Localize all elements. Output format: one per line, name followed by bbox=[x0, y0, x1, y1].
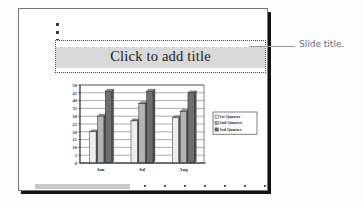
page-bottom-tick bbox=[164, 185, 166, 187]
y-axis-tick-label: 45 bbox=[73, 91, 78, 96]
bar-side-face bbox=[153, 89, 155, 163]
y-axis-tick-label: 5 bbox=[75, 153, 78, 158]
legend-label: 1st Quarter bbox=[220, 114, 241, 119]
bar[interactable] bbox=[180, 112, 186, 163]
legend-swatch bbox=[215, 115, 218, 118]
scanned-page: Click to add title 05101520253035404550J… bbox=[0, 0, 363, 207]
page-bottom-tick bbox=[264, 185, 266, 187]
page-bottom-tick bbox=[184, 185, 186, 187]
y-axis-tick-label: 25 bbox=[73, 122, 78, 127]
title-placeholder[interactable]: Click to add title bbox=[55, 40, 266, 73]
chart-svg: 05101520253035404550JunJulAug1st Quarter… bbox=[63, 81, 261, 176]
bar-chart[interactable]: 05101520253035404550JunJulAug1st Quarter… bbox=[63, 81, 261, 176]
bar-side-face bbox=[194, 91, 196, 163]
bar[interactable] bbox=[139, 104, 145, 163]
page-bottom-smudge bbox=[35, 184, 130, 189]
y-axis-tick-label: 50 bbox=[73, 83, 78, 88]
y-axis-tick-label: 15 bbox=[73, 137, 78, 142]
legend-swatch bbox=[215, 122, 218, 125]
x-axis-tick-label: Jun bbox=[97, 167, 105, 172]
page-bottom-tick bbox=[144, 185, 146, 187]
x-axis-tick-label: Jul bbox=[139, 167, 146, 172]
bar[interactable] bbox=[105, 91, 111, 163]
legend-label: 2nd Quarter bbox=[220, 120, 243, 125]
y-axis-tick-label: 20 bbox=[73, 130, 78, 135]
y-axis-tick-label: 40 bbox=[73, 98, 78, 103]
bar[interactable] bbox=[90, 132, 96, 163]
bar-side-face bbox=[112, 89, 114, 163]
y-axis-tick-label: 10 bbox=[73, 145, 78, 150]
title-placeholder-text: Click to add title bbox=[110, 48, 211, 65]
selection-handle-dot[interactable] bbox=[56, 31, 59, 34]
page-bottom-tick bbox=[224, 185, 226, 187]
bar[interactable] bbox=[97, 116, 103, 163]
page-bottom-tick bbox=[204, 185, 206, 187]
legend-swatch bbox=[215, 128, 218, 131]
x-axis-tick-label: Aug bbox=[179, 167, 188, 172]
bar[interactable] bbox=[147, 91, 153, 163]
annotation-leader-line-icon bbox=[249, 46, 295, 47]
y-axis-tick-label: 30 bbox=[73, 114, 78, 119]
legend-label: 3rd Quarter bbox=[220, 127, 242, 132]
y-axis-tick-label: 0 bbox=[75, 161, 78, 166]
selection-handle-dot[interactable] bbox=[56, 23, 59, 26]
annotation-label: Slide title. bbox=[299, 39, 344, 49]
page-bottom-tick bbox=[244, 185, 246, 187]
slide-canvas[interactable]: Click to add title 05101520253035404550J… bbox=[18, 8, 268, 191]
bar[interactable] bbox=[131, 121, 137, 163]
y-axis-tick-label: 35 bbox=[73, 106, 78, 111]
bar[interactable] bbox=[172, 118, 178, 163]
bar[interactable] bbox=[188, 93, 194, 163]
